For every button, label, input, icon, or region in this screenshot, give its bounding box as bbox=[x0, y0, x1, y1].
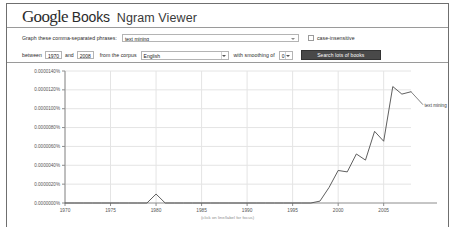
corpus-select[interactable]: English bbox=[141, 51, 229, 60]
smoothing-select[interactable]: 0 bbox=[279, 51, 293, 60]
smoothing-label: with smoothing of bbox=[234, 52, 275, 58]
ngram-line-chart[interactable]: 0.0000140%0.0000120%0.0000100%0.0000080%… bbox=[7, 63, 448, 227]
svg-text:0.0000000%: 0.0000000% bbox=[34, 201, 60, 206]
svg-text:0.0000140%: 0.0000140% bbox=[34, 69, 60, 74]
series-label[interactable]: text mining bbox=[411, 92, 447, 108]
svg-text:2000: 2000 bbox=[333, 208, 344, 213]
svg-text:1975: 1975 bbox=[105, 208, 116, 213]
header: Google Books Ngram Viewer bbox=[7, 4, 448, 28]
page-title: Ngram Viewer bbox=[117, 11, 197, 25]
svg-text:0.0000120%: 0.0000120% bbox=[34, 87, 60, 92]
corpus-select-value: English bbox=[144, 53, 160, 59]
controls-row-range: between 1970 and 2008 from the corpus En… bbox=[7, 47, 448, 63]
chevron-down-icon bbox=[222, 55, 226, 57]
and-label: and bbox=[65, 52, 74, 58]
controls-panel: Graph these comma-separated phrases: tex… bbox=[7, 28, 448, 63]
phrases-input[interactable]: text mining bbox=[122, 34, 299, 43]
x-axis-tick-labels: 19701975198019851990199520002005 bbox=[60, 208, 390, 213]
case-insensitive-control[interactable]: case-insensitive bbox=[308, 35, 355, 41]
chevron-down-icon bbox=[286, 55, 290, 57]
logo-google-text: Google bbox=[22, 7, 68, 27]
svg-text:0.0000100%: 0.0000100% bbox=[34, 106, 60, 111]
svg-text:1990: 1990 bbox=[242, 208, 253, 213]
case-insensitive-checkbox[interactable] bbox=[308, 35, 314, 41]
svg-text:2005: 2005 bbox=[378, 208, 389, 213]
search-button[interactable]: Search lots of books bbox=[301, 50, 381, 60]
svg-text:1995: 1995 bbox=[287, 208, 298, 213]
chart-container[interactable]: 0.0000140%0.0000120%0.0000100%0.0000080%… bbox=[7, 63, 448, 227]
ngram-viewer-page: Google Books Ngram Viewer Graph these co… bbox=[0, 0, 455, 230]
chart-series[interactable] bbox=[65, 87, 411, 203]
phrases-input-value: text mining bbox=[125, 36, 149, 42]
svg-text:1970: 1970 bbox=[60, 208, 71, 213]
y-axis-tick-labels: 0.0000140%0.0000120%0.0000100%0.0000080%… bbox=[34, 69, 60, 206]
svg-text:1980: 1980 bbox=[151, 208, 162, 213]
year-end-input[interactable]: 2008 bbox=[77, 51, 94, 60]
year-start-input[interactable]: 1970 bbox=[45, 51, 62, 60]
svg-text:0.0000020%: 0.0000020% bbox=[34, 182, 60, 187]
svg-text:0.0000060%: 0.0000060% bbox=[34, 144, 60, 149]
controls-row-phrases: Graph these comma-separated phrases: tex… bbox=[7, 30, 448, 46]
case-insensitive-label: case-insensitive bbox=[317, 35, 355, 41]
corpus-label: from the corpus bbox=[100, 52, 137, 58]
page-frame: Google Books Ngram Viewer Graph these co… bbox=[6, 3, 449, 227]
logo-books-text: Books bbox=[72, 9, 110, 25]
chevron-down-icon bbox=[291, 38, 295, 40]
between-label: between bbox=[22, 52, 42, 58]
chart-gridlines bbox=[65, 71, 411, 203]
google-books-logo[interactable]: Google Books Ngram Viewer bbox=[22, 7, 197, 27]
svg-text:text mining: text mining bbox=[425, 103, 448, 108]
svg-text:1985: 1985 bbox=[196, 208, 207, 213]
chart-caption: (click on line/label for focus) bbox=[7, 215, 448, 220]
svg-text:0.0000040%: 0.0000040% bbox=[34, 163, 60, 168]
svg-text:0.0000080%: 0.0000080% bbox=[34, 125, 60, 130]
phrases-label: Graph these comma-separated phrases: bbox=[22, 35, 117, 41]
